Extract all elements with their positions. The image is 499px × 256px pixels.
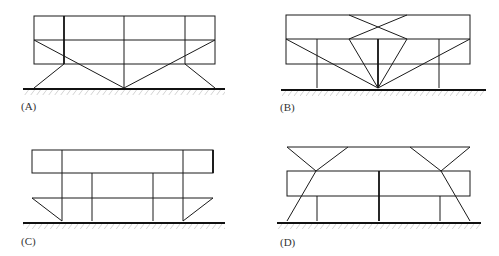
panel-d-label: (D) xyxy=(280,236,295,248)
panel-d-diagram xyxy=(277,147,481,229)
structural-diagram-figure xyxy=(0,0,499,256)
panel-b-diagram xyxy=(281,15,486,96)
panel-a-label: (A) xyxy=(21,100,36,112)
panel-c-label: (C) xyxy=(21,235,36,247)
panel-c-diagram xyxy=(23,150,225,229)
panel-b-label: (B) xyxy=(280,101,295,113)
panel-a-diagram xyxy=(23,16,225,95)
